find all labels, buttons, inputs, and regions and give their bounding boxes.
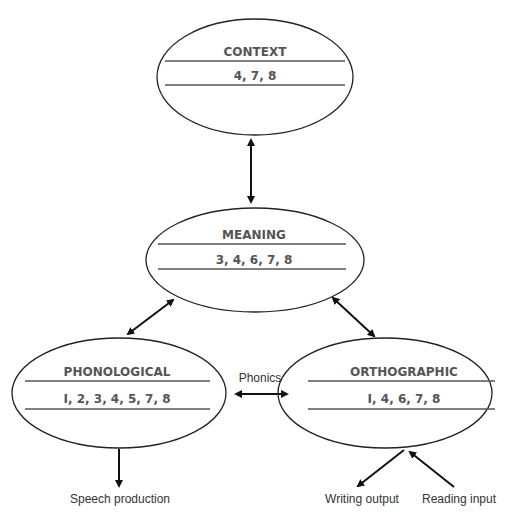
orthographic-node: ORTHOGRAPHIC I, 4, 6, 7, 8 xyxy=(278,338,495,448)
phonics-label: Phonics xyxy=(239,371,282,385)
reading-input-arrow xyxy=(410,452,454,487)
orthographic-title: ORTHOGRAPHIC xyxy=(350,365,458,379)
phonological-title: PHONOLOGICAL xyxy=(64,365,171,379)
context-numbers: 4, 7, 8 xyxy=(234,69,277,83)
phonological-numbers: I, 2, 3, 4, 5, 7, 8 xyxy=(64,392,171,406)
meaning-orthographic-arrow xyxy=(333,298,374,336)
meaning-numbers: 3, 4, 6, 7, 8 xyxy=(216,253,293,267)
meaning-phonological-arrow xyxy=(128,300,173,334)
context-title: CONTEXT xyxy=(224,45,288,59)
meaning-title: MEANING xyxy=(222,228,286,242)
reading-input-label: Reading input xyxy=(422,492,497,506)
meaning-node: MEANING 3, 4, 6, 7, 8 xyxy=(146,208,364,312)
phonological-node: PHONOLOGICAL I, 2, 3, 4, 5, 7, 8 xyxy=(12,338,226,448)
speech-production-label: Speech production xyxy=(70,492,170,506)
writing-output-arrow xyxy=(358,450,404,486)
reading-model-diagram: CONTEXT 4, 7, 8 MEANING 3, 4, 6, 7, 8 PH… xyxy=(0,0,527,525)
writing-output-label: Writing output xyxy=(325,492,399,506)
context-node: CONTEXT 4, 7, 8 xyxy=(157,19,353,135)
orthographic-numbers: I, 4, 6, 7, 8 xyxy=(368,392,441,406)
